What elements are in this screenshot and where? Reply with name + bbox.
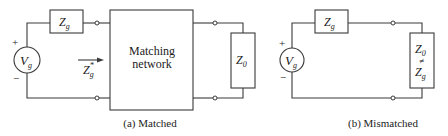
terminal-out-bottom-a <box>213 96 217 100</box>
wire-load-top-b <box>395 23 422 33</box>
minus-sign-b: − <box>280 71 286 83</box>
plus-sign-b: + <box>279 37 285 49</box>
input-impedance-label: Zg* <box>83 61 94 79</box>
wire-bottom-b <box>292 72 391 98</box>
terminal-out-top-a <box>213 21 217 25</box>
matching-network-label-line2: network <box>132 57 171 71</box>
matched-circuit: Vg + − Zg Zg* Matching network Z0 (a) Ma… <box>12 10 255 130</box>
wire-load-bottom-a <box>217 88 243 98</box>
terminal-top-b <box>391 21 395 25</box>
wire-load-bottom-b <box>395 88 422 98</box>
terminal-bottom-b <box>391 96 395 100</box>
terminal-in-bottom-a <box>95 96 99 100</box>
circuit-diagram: Vg + − Zg Zg* Matching network Z0 (a) Ma… <box>0 0 448 136</box>
caption-matched: (a) Matched <box>123 117 177 130</box>
wire-load-top-a <box>217 23 243 33</box>
terminal-in-top-a <box>95 21 99 25</box>
plus-sign-a: + <box>12 36 18 48</box>
caption-mismatched: (b) Mismatched <box>348 117 418 130</box>
wire-top-left-b <box>292 23 315 48</box>
minus-sign-a: − <box>13 72 19 84</box>
matching-network-label-line1: Matching <box>129 44 175 58</box>
wire-top-left-a <box>27 23 50 47</box>
mismatched-circuit: Vg + − Zg Z0 ≠ Zg (b) Mismatched <box>279 10 434 130</box>
